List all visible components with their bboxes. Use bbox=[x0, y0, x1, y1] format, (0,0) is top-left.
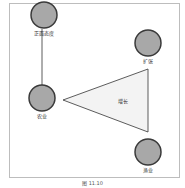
node-expansion-label: 扩张 bbox=[143, 58, 153, 64]
node-agriculture-label: 农业 bbox=[37, 113, 47, 119]
diagram-canvas bbox=[0, 0, 185, 188]
node-expansion-circle bbox=[135, 30, 161, 56]
figure-caption: 图 11.10 bbox=[82, 179, 103, 186]
node-positive-attitude-circle bbox=[31, 2, 57, 28]
node-agriculture-circle bbox=[29, 85, 55, 111]
node-fishery-label: 渔业 bbox=[143, 167, 153, 173]
growth-triangle bbox=[63, 69, 148, 132]
node-positive-attitude-label: 正面态度 bbox=[34, 30, 54, 36]
node-fishery-circle bbox=[135, 139, 161, 165]
node-growth-label: 增长 bbox=[118, 98, 128, 104]
